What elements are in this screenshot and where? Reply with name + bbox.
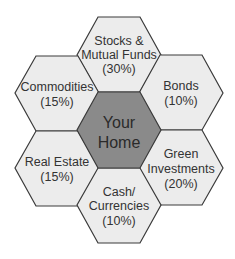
stocks-percent: (30%) (102, 62, 135, 76)
center-label-line1: Your (103, 114, 136, 131)
commodities-label: Commodities (21, 80, 94, 94)
cash-label-line2: Currencies (89, 199, 149, 213)
bonds-percent: (10%) (164, 94, 197, 108)
center-label-line2: Home (98, 134, 141, 151)
real-estate-label: Real Estate (25, 155, 90, 169)
asset-allocation-hexagon-diagram: Stocks & Mutual Funds (30%) Commodities … (0, 0, 235, 259)
cash-label-line1: Cash/ (103, 185, 136, 199)
stocks-label-line2: Mutual Funds (81, 48, 157, 62)
commodities-percent: (15%) (40, 95, 73, 109)
green-label-line1: Green (164, 147, 199, 161)
green-label-line2: Investments (147, 162, 214, 176)
cash-percent: (10%) (102, 214, 135, 228)
stocks-label-line1: Stocks & (94, 34, 144, 48)
green-percent: (20%) (164, 177, 197, 191)
bonds-label: Bonds (163, 79, 198, 93)
real-estate-percent: (15%) (40, 170, 73, 184)
